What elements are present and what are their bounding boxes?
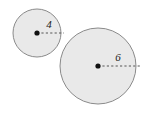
large-circle-radius-label: 6 — [115, 51, 121, 63]
small-circle-group: 4 — [13, 9, 64, 57]
small-circle-radius-label: 4 — [46, 18, 52, 30]
small-circle-center-dot — [34, 30, 39, 35]
large-circle-center-dot — [95, 63, 100, 68]
geometry-diagram-svg: 4 6 — [0, 0, 147, 114]
large-circle-group: 6 — [60, 28, 142, 104]
figure-canvas: 4 6 — [0, 0, 147, 114]
